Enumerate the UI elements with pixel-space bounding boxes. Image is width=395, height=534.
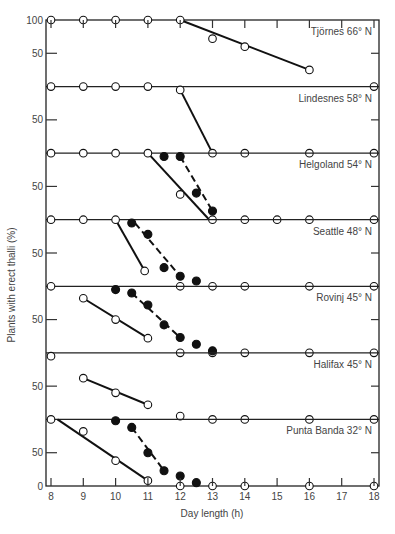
panel-seattle: 50Seattle 48° N (32, 216, 379, 290)
filled-circle-marker (176, 152, 184, 160)
open-circle-marker (112, 149, 120, 157)
open-circle-marker (80, 294, 88, 302)
filled-circle-marker (192, 479, 200, 487)
open-circle-marker (47, 282, 55, 290)
chart-panels: 50Tjörnes 66° N50Lindesnes 58° N50Helgol… (32, 16, 379, 490)
filled-circle-marker (209, 347, 217, 355)
filled-circle-marker (192, 277, 200, 285)
y-tick-label-50: 50 (32, 181, 44, 192)
filled-circle-marker (112, 417, 120, 425)
filled-circle-marker (160, 321, 168, 329)
filled-circle-marker (176, 334, 184, 342)
x-tick-label: 15 (272, 491, 284, 502)
open-circle-marker (306, 66, 314, 74)
filled-circle-marker (144, 230, 152, 238)
filled-circle-marker (160, 264, 168, 272)
dashed-fit-line (132, 293, 180, 338)
y-tick-label-50: 50 (32, 314, 44, 325)
solid-fit-line (116, 220, 145, 271)
y-axis-label: Plants with erect thalli (%) (6, 227, 17, 342)
open-circle-marker (80, 83, 88, 91)
y-tick-label-50: 50 (32, 48, 44, 59)
open-circle-marker (144, 149, 152, 157)
panel-label: Rovinj 45° N (316, 292, 372, 303)
open-circle-marker (176, 86, 184, 94)
filled-circle-marker (128, 289, 136, 297)
x-tick-label: 18 (368, 491, 380, 502)
filled-circle-marker (209, 207, 217, 215)
x-tick-label: 8 (48, 491, 54, 502)
filled-circle-marker (128, 423, 136, 431)
panel-label: Helgoland 54° N (299, 159, 372, 170)
filled-circle-marker (144, 449, 152, 457)
filled-circle-marker (144, 301, 152, 309)
y-tick-label-50: 50 (32, 381, 44, 392)
open-circle-marker (144, 334, 152, 342)
open-circle-marker (112, 83, 120, 91)
filled-circle-marker (176, 272, 184, 280)
panel-rovinj: 50Rovinj 45° N (32, 282, 379, 356)
panel-lindesnes: 50Lindesnes 58° N (32, 83, 379, 157)
panel-label: Lindesnes 58° N (299, 93, 373, 104)
stacked-panel-chart: 50Tjörnes 66° N50Lindesnes 58° N50Helgol… (0, 0, 395, 534)
open-circle-marker (80, 216, 88, 224)
open-circle-marker (47, 216, 55, 224)
open-circle-marker (47, 149, 55, 157)
filled-circle-marker (160, 152, 168, 160)
open-circle-marker (112, 316, 120, 324)
panel-label: Seattle 48° N (313, 226, 372, 237)
x-axis-label: Day length (h) (181, 508, 244, 519)
open-circle-marker (241, 43, 249, 51)
y-tick-label-50: 50 (32, 447, 44, 458)
open-circle-marker (176, 412, 184, 420)
open-circle-marker (112, 457, 120, 465)
open-circle-marker (141, 267, 149, 275)
panel-label: Halifax 45° N (314, 359, 372, 370)
open-circle-marker (80, 374, 88, 382)
x-tick-label: 11 (143, 491, 154, 502)
open-circle-marker (47, 352, 55, 360)
panel-punta: 50Punta Banda 32° N (32, 416, 379, 490)
open-circle-marker (144, 401, 152, 409)
solid-fit-line (180, 90, 212, 153)
open-circle-marker (112, 216, 120, 224)
open-circle-marker (47, 416, 55, 424)
panel-helgoland: 50Helgoland 54° N (32, 149, 379, 223)
y-tick-label-0: 0 (37, 481, 43, 492)
open-circle-marker (80, 149, 88, 157)
y-tick-label-100: 100 (26, 15, 43, 26)
x-tick-label: 16 (304, 491, 316, 502)
y-tick-label-50: 50 (32, 114, 44, 125)
open-circle-marker (47, 83, 55, 91)
open-circle-marker (144, 83, 152, 91)
solid-fit-line (148, 153, 209, 220)
panel-tjörnes: 50Tjörnes 66° N (32, 16, 379, 90)
filled-circle-marker (192, 340, 200, 348)
x-tick-label: 17 (336, 491, 348, 502)
panel-halifax: 50Halifax 45° N (32, 352, 379, 423)
open-circle-marker (80, 428, 88, 436)
x-tick-label: 10 (110, 491, 122, 502)
x-tick-label: 14 (239, 491, 251, 502)
filled-circle-marker (192, 189, 200, 197)
open-circle-marker (112, 389, 120, 397)
x-tick-label: 9 (81, 491, 87, 502)
filled-circle-marker (128, 219, 136, 227)
dashed-fit-line (180, 156, 212, 211)
filled-circle-marker (112, 286, 120, 294)
panel-label: Punta Banda 32° N (286, 425, 372, 436)
open-circle-marker (176, 191, 184, 199)
filled-circle-marker (160, 467, 168, 475)
y-tick-label-50: 50 (32, 248, 44, 259)
x-tick-label: 12 (175, 491, 187, 502)
open-circle-marker (209, 35, 217, 43)
x-tick-label: 13 (207, 491, 219, 502)
